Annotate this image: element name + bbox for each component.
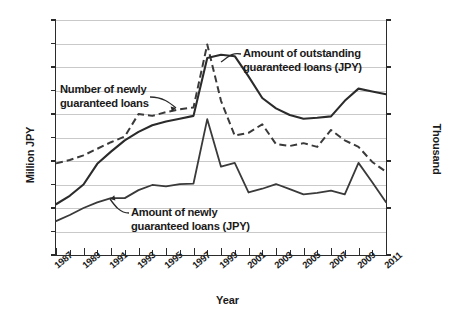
x-axis-title: Year <box>0 294 455 306</box>
annotation-newly: Amount of newly guaranteed loans (JPY) <box>131 206 250 233</box>
annotation-newly-line1: Amount of newly <box>131 206 250 220</box>
annotation-number-line2: guaranteed loans <box>60 97 149 111</box>
annotation-outstanding-line2: guaranteed loans (JPY) <box>243 61 362 75</box>
annotation-outstanding: Amount of outstanding guaranteed loans (… <box>243 47 362 74</box>
y-axis-left-title: Million JPY <box>24 127 36 183</box>
y-axis-right-title: Thousand <box>432 123 444 174</box>
series-line-amount-of-outstanding-guaranteed-loans <box>56 55 386 204</box>
annotation-newly-line2: guaranteed loans (JPY) <box>131 220 250 234</box>
annotation-outstanding-line1: Amount of outstanding <box>243 47 362 61</box>
annotation-number: Number of newly guaranteed loans <box>60 83 149 110</box>
chart-figure: Million JPY Thousand Year 05101520253035… <box>0 0 455 310</box>
annotation-number-line1: Number of newly <box>60 83 149 97</box>
